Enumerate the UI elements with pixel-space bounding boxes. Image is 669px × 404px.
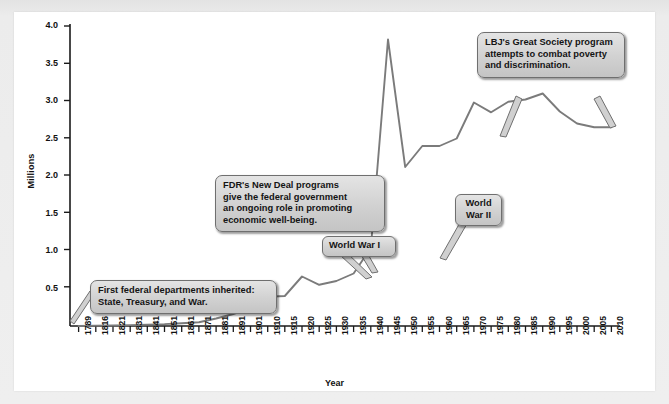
x-tick-label: 1920 [306,316,316,335]
x-tick-label: 1881 [220,316,230,335]
callout-line: LBJ's Great Society program [485,37,617,49]
x-tick-label: 1901 [254,316,264,335]
y-tick-label: 1.0 [32,245,58,255]
callout-line: First federal departments inherited: [98,285,269,297]
x-tick-label: 1821 [117,316,127,335]
callout-fdr-new-deal[interactable]: FDR's New Deal programs give the federal… [215,175,385,232]
x-tick-label: 1861 [186,316,196,335]
callout-world-war-2[interactable]: World War II [455,194,502,226]
x-tick-label: 1789 [83,316,93,335]
callout-line: economic well-being. [223,215,377,227]
callout-lbj-great-society[interactable]: LBJ's Great Society program attempts to … [477,32,625,78]
x-tick-label: 1930 [340,316,350,335]
callout-line: World [462,198,495,210]
x-tick-label: 1831 [134,316,144,335]
callout-world-war-1[interactable]: World War I [322,236,396,257]
x-tick-label: 1871 [203,316,213,335]
y-axis-ticks [64,26,70,287]
callout-line: FDR's New Deal programs [223,180,377,192]
x-tick-label: 1960 [444,316,454,335]
page-root: Millions Year 4.03.53.02.52.01.51.00.5 1… [0,0,669,404]
callout-line: World War I [329,240,389,252]
callout-line: and discrimination. [485,60,617,72]
y-tick-label: 2.0 [32,170,58,180]
x-tick-label: 1990 [547,316,557,335]
callout-line: an ongoing role in promoting [223,203,377,215]
x-tick-label: 2005 [598,316,608,335]
x-tick-label: 1965 [461,316,471,335]
x-tick-label: 1995 [564,316,574,335]
x-tick-label: 1970 [478,316,488,335]
x-tick-label: 1910 [272,316,282,335]
x-tick-label: 1980 [512,316,522,335]
callout-first-departments[interactable]: First federal departments inherited: Sta… [90,280,277,314]
x-tick-label: 1935 [358,316,368,335]
y-tick-label: 1.5 [32,208,58,218]
x-tick-label: 1985 [529,316,539,335]
x-tick-label: 1915 [289,316,299,335]
x-tick-label: 1925 [323,316,333,335]
x-tick-label: 1955 [426,316,436,335]
callout-line: attempts to combat poverty [485,49,617,61]
x-tick-label: 1945 [392,316,402,335]
callout-line: give the federal government [223,192,377,204]
y-tick-label: 2.5 [32,133,58,143]
x-tick-label: 1975 [495,316,505,335]
x-tick-label: 1816 [100,316,110,335]
y-tick-label: 3.0 [32,95,58,105]
x-tick-label: 2010 [615,316,625,335]
x-axis-title: Year [0,378,669,388]
callout-line: War II [462,210,495,222]
y-tick-label: 0.5 [32,283,58,293]
y-tick-label: 3.5 [32,58,58,68]
x-tick-label: 1950 [409,316,419,335]
x-tick-label: 1841 [151,316,161,335]
x-tick-label: 1940 [375,316,385,335]
x-tick-label: 1851 [169,316,179,335]
x-tick-label: 2000 [581,316,591,335]
x-tick-label: 1891 [237,316,247,335]
y-tick-label: 4.0 [32,20,58,30]
callout-line: State, Treasury, and War. [98,297,269,309]
